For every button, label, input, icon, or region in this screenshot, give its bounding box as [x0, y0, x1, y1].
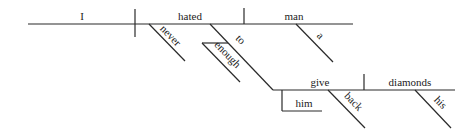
word-a: a [315, 29, 327, 41]
word-to: to [234, 32, 249, 47]
word-verb: hated [178, 10, 202, 22]
word-object: man [285, 10, 304, 22]
word-subject: I [80, 10, 84, 22]
a-modifier-line [296, 24, 333, 62]
sentence-diagram: I hated man never to enough a give diamo… [0, 0, 472, 135]
word-diamonds: diamonds [389, 76, 432, 88]
word-back: back [342, 90, 365, 114]
his-modifier-line [415, 90, 451, 128]
word-never: never [158, 22, 184, 48]
word-his: his [432, 93, 450, 111]
word-give: give [311, 76, 330, 88]
word-him: him [295, 97, 313, 109]
